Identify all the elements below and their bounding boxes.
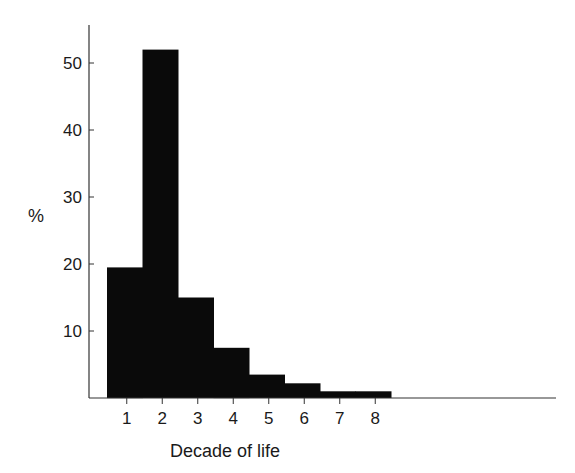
x-tick-label: 7 (335, 409, 344, 428)
bar-decade-5 (249, 375, 285, 398)
histogram-chart: 1020304050 12345678 % Decade of life (0, 0, 575, 473)
bar-decade-1 (107, 267, 143, 398)
y-tick-label: 10 (63, 322, 82, 341)
x-tick-label: 1 (122, 409, 131, 428)
x-tick-label: 5 (264, 409, 273, 428)
bar-decade-7 (320, 391, 356, 398)
y-tick-label: 50 (63, 54, 82, 73)
x-axis-label: Decade of life (170, 441, 280, 461)
y-tick-label: 20 (63, 255, 82, 274)
x-tick-label: 8 (371, 409, 380, 428)
bars-group (107, 50, 392, 398)
x-tick-label: 3 (193, 409, 202, 428)
x-tick-label: 2 (158, 409, 167, 428)
bar-decade-2 (143, 50, 179, 398)
x-ticks: 12345678 (122, 398, 380, 428)
y-tick-label: 30 (63, 188, 82, 207)
x-tick-label: 6 (300, 409, 309, 428)
bar-decade-4 (214, 348, 250, 398)
bar-decade-3 (178, 298, 214, 399)
y-tick-label: 40 (63, 121, 82, 140)
bar-decade-6 (285, 383, 321, 398)
y-axis-label: % (28, 206, 44, 226)
x-tick-label: 4 (229, 409, 238, 428)
bar-decade-8 (356, 391, 392, 398)
